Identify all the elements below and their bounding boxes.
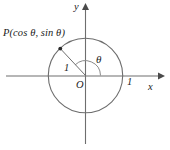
unit-circle-figure: P(cos θ, sin θ) y x O 1 1 θ [0, 0, 170, 150]
x-axis-label: x [148, 82, 153, 93]
origin-label: O [76, 80, 84, 91]
unit-circle-diagram-canvas [0, 0, 170, 150]
point-p-marker [58, 47, 62, 51]
point-p-label: P(cos θ, sin θ) [3, 28, 65, 39]
radius-length-label: 1 [64, 63, 69, 74]
y-axis-arrowhead [82, 3, 89, 10]
x-intercept-label: 1 [127, 77, 132, 88]
y-axis-label: y [74, 2, 79, 13]
angle-theta-label: θ [96, 54, 101, 65]
x-axis-arrowhead [158, 72, 165, 79]
